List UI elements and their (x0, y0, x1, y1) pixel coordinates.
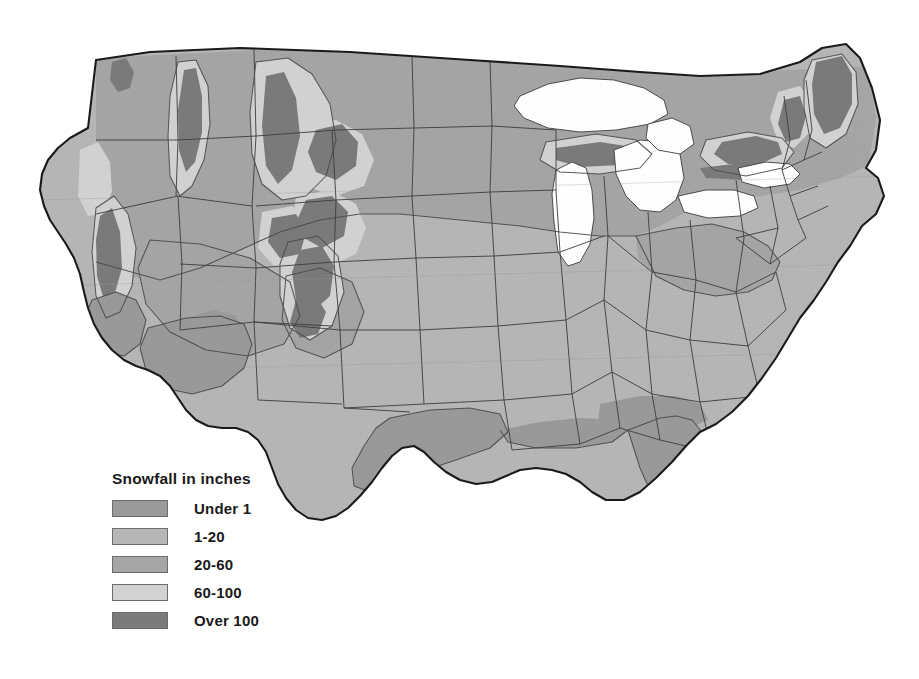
legend-item-1-20: 1-20 (112, 525, 342, 547)
legend-swatch-20-60 (112, 556, 168, 573)
legend-label-under-1: Under 1 (194, 500, 251, 517)
legend-item-over-100: Over 100 (112, 609, 342, 631)
legend-label-20-60: 20-60 (194, 556, 233, 573)
legend-title: Snowfall in inches (112, 470, 342, 488)
legend-swatch-over-100 (112, 612, 168, 629)
legend-swatch-1-20 (112, 528, 168, 545)
legend-swatch-60-100 (112, 584, 168, 601)
legend-swatch-under-1 (112, 500, 168, 517)
legend-item-20-60: 20-60 (112, 553, 342, 575)
map-legend: Snowfall in inches Under 1 1-20 20-60 60… (112, 470, 342, 637)
legend-label-over-100: Over 100 (194, 612, 259, 629)
legend-item-under-1: Under 1 (112, 497, 342, 519)
legend-label-1-20: 1-20 (194, 528, 225, 545)
snowfall-map-figure: Snowfall in inches Under 1 1-20 20-60 60… (0, 0, 919, 679)
legend-item-60-100: 60-100 (112, 581, 342, 603)
legend-label-60-100: 60-100 (194, 584, 242, 601)
